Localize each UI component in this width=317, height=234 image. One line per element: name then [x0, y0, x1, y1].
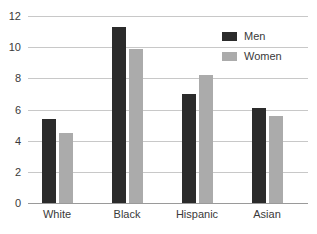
x-axis-tick-label: Asian	[253, 209, 281, 220]
legend-item-women: Women	[222, 51, 282, 62]
bar-hispanic-women	[199, 75, 213, 203]
bar-hispanic-men	[182, 94, 196, 203]
y-axis-tick-label: 4	[15, 135, 21, 146]
bar-asian-women	[269, 116, 283, 203]
bar-black-men	[112, 27, 126, 203]
legend-swatch-men	[222, 32, 237, 41]
y-axis-tick-label: 8	[15, 73, 21, 84]
x-axis-tick-label: Hispanic	[176, 209, 218, 220]
bar-group-white: White	[42, 16, 73, 203]
x-axis-tick-label: White	[43, 209, 71, 220]
gridline-0	[28, 203, 308, 204]
y-axis-tick-label: 2	[15, 166, 21, 177]
legend-item-men: Men	[222, 31, 282, 42]
y-axis-tick-label: 10	[9, 42, 21, 53]
y-axis-tick-label: 0	[15, 198, 21, 209]
y-axis-tick-label: 6	[15, 104, 21, 115]
bar-group-hispanic: Hispanic	[182, 16, 213, 203]
bar-chart: 024681012 WhiteBlackHispanicAsian Men Wo…	[0, 0, 317, 234]
legend-swatch-women	[222, 52, 237, 61]
bar-white-men	[42, 119, 56, 203]
legend-label-men: Men	[244, 31, 265, 42]
bar-asian-men	[252, 108, 266, 203]
bar-group-black: Black	[112, 16, 143, 203]
chart-legend: Men Women	[222, 31, 282, 62]
bar-black-women	[129, 49, 143, 203]
legend-label-women: Women	[244, 51, 282, 62]
x-axis-tick-label: Black	[114, 209, 141, 220]
bar-white-women	[59, 133, 73, 203]
y-axis-tick-label: 12	[9, 11, 21, 22]
